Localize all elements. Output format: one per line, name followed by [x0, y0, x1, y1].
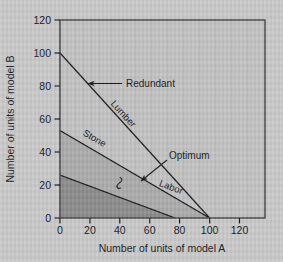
x-tick-label-40: 40 [114, 224, 126, 236]
x-tick-label-120: 120 [231, 224, 249, 236]
y-tick-label-80: 80 [39, 80, 51, 92]
y-tick-label-100: 100 [33, 47, 51, 59]
y-axis-ticks [55, 20, 61, 218]
x-tick-label-100: 100 [201, 224, 219, 236]
x-tick-label-60: 60 [144, 224, 156, 236]
x-axis-ticks [60, 218, 240, 224]
x-tick-label-20: 20 [84, 224, 96, 236]
linear-programming-chart: 120 100 80 60 40 20 0 0 20 40 60 80 100 … [0, 0, 283, 262]
annotation-optimum: Optimum [169, 150, 210, 161]
y-tick-label-0: 0 [45, 212, 51, 224]
annotation-redundant: Redundant [126, 78, 175, 89]
y-tick-label-60: 60 [39, 113, 51, 125]
y-tick-label-20: 20 [39, 179, 51, 191]
y-tick-labels: 120 100 80 60 40 20 0 [33, 14, 51, 224]
figure-container: 120 100 80 60 40 20 0 0 20 40 60 80 100 … [0, 0, 283, 262]
x-tick-labels: 0 20 40 60 80 100 120 [57, 224, 248, 236]
y-tick-label-40: 40 [39, 146, 51, 158]
x-axis-title: Number of units of model A [99, 242, 226, 254]
x-tick-label-0: 0 [57, 224, 63, 236]
y-tick-label-120: 120 [33, 14, 51, 26]
x-tick-label-80: 80 [174, 224, 186, 236]
y-axis-title: Number of units of model B [4, 55, 16, 182]
